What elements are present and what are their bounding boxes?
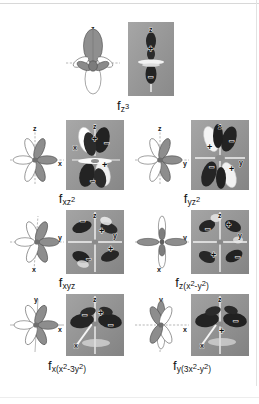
sign-plus-2: + [211, 250, 216, 260]
photo-axis-label-z: z [93, 123, 97, 130]
caption-fy3x2y2: fy(3x2-y2) [133, 358, 251, 374]
sign-plus-2: + [229, 164, 234, 174]
photo-axis-label-x: x [74, 342, 78, 349]
axis-label-x: x [32, 266, 36, 273]
axis-label-x: x [58, 326, 62, 333]
sign-plus: + [148, 44, 153, 54]
line-drawing-fxx23y2: y x [8, 294, 66, 356]
caption-fzx2y2: fz(x2-y2) [133, 275, 251, 291]
caption-fz3: fz3 [62, 98, 184, 114]
sign-plus: + [207, 142, 212, 152]
photo-axis-label-z: z [218, 212, 222, 219]
caption-fxz2: fxz2 [8, 191, 126, 207]
sign-minus-2: − [90, 176, 95, 186]
photo-axis-label-z: z [93, 296, 97, 303]
orbital-cell-fyz2: z y [133, 120, 251, 208]
orbital-cell-fz3: z [62, 22, 184, 120]
orbital-pair: y x [8, 294, 126, 356]
sign-plus-2: + [108, 244, 113, 254]
sign-minus-2: − [205, 224, 210, 234]
sign-minus: − [233, 316, 238, 326]
caption-sub: xz2 [63, 197, 76, 207]
axis-label-z: z [158, 125, 162, 132]
line-drawing-fxyz: y x [8, 210, 66, 274]
axis-label-z: z [33, 125, 37, 132]
photo-axis-label-z: z [93, 212, 97, 219]
line-drawing-fzx2y2: y x [133, 210, 191, 274]
sign-minus-2: − [108, 320, 113, 330]
sign-minus: − [82, 310, 87, 320]
photo-panel-fzx2y2: z y + − + − [191, 210, 249, 274]
sign-minus: − [235, 252, 240, 262]
photo-panel-fxx23y2: z x − + − [66, 294, 124, 356]
caption-sub: x(x2-3y2) [52, 364, 86, 374]
orbital-pair: y x [133, 294, 251, 356]
photo-axis-label-z: z [218, 123, 222, 130]
sign-minus-2: − [209, 162, 214, 172]
orbital-pair: z [62, 22, 184, 96]
photo-axis-label-y: y [239, 159, 243, 167]
orbital-pair: y x [133, 210, 251, 274]
photo-axis-label-z: z [149, 26, 153, 33]
orbital-pair: z y [133, 120, 251, 190]
line-drawing-fxz2: z x [8, 120, 66, 190]
page-edge-bottom [0, 397, 259, 398]
axis-label-x: x [183, 326, 187, 333]
sign-plus: + [92, 134, 97, 144]
sign-plus: + [99, 226, 104, 236]
photo-axis-label-z: z [218, 296, 222, 303]
sign-minus: − [86, 254, 91, 264]
photo-panel-fxz2: z x + − + − [66, 120, 124, 190]
sign-plus: + [226, 220, 231, 230]
page-edge-right [256, 0, 257, 386]
photo-axis-label-x: x [200, 342, 204, 349]
caption-sub: z3 [121, 104, 129, 114]
photo-panel-fy3x2y2: z x + − [191, 294, 249, 356]
photo-axis-label-x: x [73, 144, 77, 151]
line-drawing-fz3: z [62, 22, 124, 96]
caption-sub: y(3x2-y2) [177, 364, 211, 374]
page-edge-top [0, 3, 259, 4]
orbital-cell-fxyz: y x [8, 210, 126, 294]
orbital-pair: z x [8, 120, 126, 190]
sign-minus: − [229, 136, 234, 146]
caption-fxx23y2: fx(x2-3y2) [8, 358, 126, 374]
caption-fxyz: fxyz [8, 275, 126, 291]
axis-label-x: x [58, 160, 62, 167]
caption-fyz2: fyz2 [133, 191, 251, 207]
photo-panel-fyz2: z y + − + − [191, 120, 249, 190]
photo-axis-label-y: y [238, 232, 242, 240]
photo-axis-label-y: y [113, 232, 117, 240]
sign-plus: + [98, 308, 103, 318]
orbital-cell-fzx2y2: y x [133, 210, 251, 294]
orbital-cell-fxz2: z x [8, 120, 126, 208]
orbital-cell-fy3x2y2: y x [133, 294, 251, 384]
sign-minus-2: − [80, 216, 85, 226]
sign-minus: − [148, 72, 153, 82]
caption-sub: xyz [63, 281, 76, 291]
orbital-pair: y x [8, 210, 126, 274]
line-drawing-fy3x2y2: y x [133, 294, 191, 356]
sign-minus: − [104, 138, 109, 148]
figure-page: z [0, 0, 259, 404]
line-drawing-fyz2: z y [133, 120, 191, 190]
caption-sub: yz2 [188, 197, 201, 207]
axis-label-y: y [183, 160, 187, 168]
caption-sub: z(x2-y2) [179, 281, 209, 291]
sign-plus-2: + [102, 160, 107, 170]
sign-plus: + [219, 326, 224, 336]
axis-label-y: y [34, 296, 38, 304]
photo-panel-fxyz: z y + − + − [66, 210, 124, 274]
orbital-cell-fxx23y2: y x [8, 294, 126, 384]
photo-panel-fz3: z + − [128, 22, 174, 96]
